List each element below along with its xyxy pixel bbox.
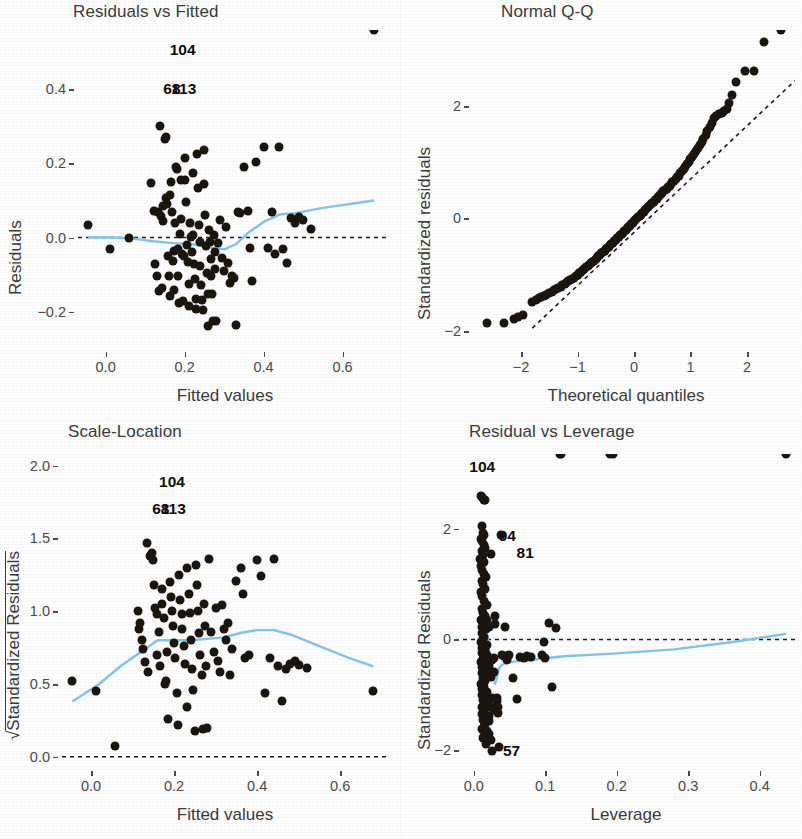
x-tick-mark	[578, 352, 580, 357]
data-point	[486, 549, 495, 558]
data-point	[176, 595, 185, 604]
data-point	[151, 260, 160, 269]
data-point	[144, 668, 153, 677]
y-tick-label: 1.5	[10, 530, 50, 546]
data-point	[198, 305, 207, 314]
data-point	[492, 693, 501, 702]
y-axis-label: Residuals	[6, 220, 26, 295]
y-tick-label: 0	[421, 210, 461, 226]
data-point	[539, 637, 548, 646]
plot-area: 104948157	[463, 454, 799, 764]
diagnostic-plot-grid: Residuals vs Fitted Residuals Fitted val…	[0, 0, 802, 839]
data-point	[199, 599, 208, 608]
data-point	[245, 243, 254, 252]
data-point	[195, 629, 204, 638]
data-point	[184, 589, 193, 598]
y-tick-mark	[464, 331, 469, 333]
data-point	[164, 714, 173, 723]
data-point	[226, 671, 235, 680]
x-tick-mark	[688, 771, 690, 776]
x-tick-label: 1	[686, 359, 694, 375]
panel-title: Residual vs Leverage	[469, 422, 634, 442]
data-point	[164, 272, 173, 281]
data-point	[269, 554, 278, 563]
data-point	[142, 538, 151, 547]
data-point	[501, 623, 510, 632]
y-tick-mark	[69, 163, 74, 165]
data-point	[172, 688, 181, 697]
x-tick-label: −1	[569, 359, 586, 375]
x-axis-label: Fitted values	[60, 386, 390, 406]
x-tick-label: 0.2	[164, 778, 184, 794]
data-point	[239, 163, 248, 172]
outlier-label: 57	[503, 742, 520, 760]
data-point	[267, 208, 276, 217]
x-tick-mark	[174, 771, 176, 776]
data-point	[111, 741, 120, 750]
y-axis-label-text: √Standardized Residuals	[4, 551, 23, 740]
data-point	[209, 647, 218, 656]
data-point	[201, 210, 210, 219]
x-tick-label: 0.0	[96, 359, 116, 375]
data-point	[174, 272, 183, 281]
x-tick-mark	[264, 352, 266, 357]
data-point	[181, 176, 190, 185]
y-tick-label: 0.0	[10, 749, 50, 765]
x-tick-label: 0.4	[254, 359, 274, 375]
data-point	[609, 454, 618, 459]
data-point	[279, 244, 288, 253]
data-point	[232, 576, 241, 585]
data-point	[728, 90, 737, 99]
y-tick-label: −2	[411, 742, 451, 758]
y-axis-label: Standardized residuals	[415, 147, 435, 320]
y-tick-label: 0	[411, 631, 451, 647]
data-point	[199, 146, 208, 155]
data-point	[776, 30, 785, 35]
x-axis-label: Leverage	[461, 805, 791, 825]
data-point	[259, 142, 268, 151]
data-point	[157, 283, 166, 292]
data-point	[481, 675, 490, 684]
data-point	[548, 682, 557, 691]
data-point	[500, 319, 509, 328]
data-point	[174, 720, 183, 729]
data-point	[178, 624, 187, 633]
data-point	[213, 656, 222, 665]
x-axis-label: Fitted values	[60, 805, 390, 825]
y-tick-mark	[53, 757, 58, 759]
data-point	[166, 592, 175, 601]
data-point	[175, 229, 184, 238]
data-point	[167, 177, 176, 186]
data-point	[217, 601, 226, 610]
data-point	[512, 695, 521, 704]
data-point	[307, 225, 316, 234]
y-tick-label: −2	[421, 323, 461, 339]
data-point	[519, 311, 528, 320]
data-point	[169, 621, 178, 630]
y-tick-mark	[69, 89, 74, 91]
data-point	[154, 627, 163, 636]
y-tick-mark	[454, 639, 459, 641]
x-tick-label: 0.3	[678, 778, 698, 794]
data-point	[238, 589, 247, 598]
x-tick-mark	[474, 771, 476, 776]
data-point	[136, 618, 145, 627]
data-point	[494, 702, 503, 711]
data-point	[551, 624, 560, 633]
plot-area: 10468113	[78, 30, 390, 345]
data-point	[158, 599, 167, 608]
data-point	[192, 580, 201, 589]
data-point	[167, 207, 176, 216]
data-point	[161, 677, 170, 686]
data-point	[159, 216, 168, 225]
panel-normal-qq: Normal Q-Q Standardized residuals Theore…	[401, 0, 802, 420]
data-point	[215, 668, 224, 677]
x-tick-label: 0.2	[175, 359, 195, 375]
panel-residual-vs-leverage: Residual vs Leverage Standardized Residu…	[401, 420, 802, 839]
data-point	[208, 289, 217, 298]
y-axis-label: Standardized Residuals	[415, 570, 435, 750]
data-point	[302, 663, 311, 672]
x-tick-label: 0	[630, 359, 638, 375]
x-tick-mark	[106, 352, 108, 357]
data-point	[92, 687, 101, 696]
